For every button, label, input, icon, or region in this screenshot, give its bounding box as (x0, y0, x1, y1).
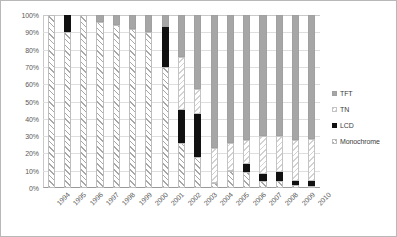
bar-segment-tn (308, 139, 315, 180)
plot-area: 0%10%20%30%40%50%60%70%80%90%100% 199419… (43, 15, 320, 188)
x-axis-tick-label: 2007 (267, 191, 283, 207)
stacked-bar (243, 15, 250, 188)
bar-column[interactable] (259, 15, 266, 188)
x-axis-tick-label: 1999 (137, 191, 153, 207)
bar-column[interactable] (80, 15, 87, 188)
stacked-bar (80, 15, 87, 188)
bar-column[interactable] (227, 15, 234, 188)
y-axis-tick-label: 10% (25, 167, 39, 174)
legend-item-monochrome[interactable]: Monochrome (332, 133, 394, 149)
stacked-bar (96, 15, 103, 188)
bar-segment-tft (276, 15, 283, 136)
bar-segment-monochrome (178, 143, 185, 188)
bar-segment-monochrome (308, 186, 315, 188)
bar-column[interactable] (194, 15, 201, 188)
bar-segment-tft (259, 15, 266, 136)
bar-segment-tft (194, 15, 201, 89)
bar-segment-monochrome (276, 181, 283, 188)
bar-column[interactable] (162, 15, 169, 188)
bar-column[interactable] (308, 15, 315, 188)
bar-segment-lcd (178, 110, 185, 143)
chart-legend: TFTTNLCDMonochrome (332, 85, 394, 149)
bar-segment-tn (227, 143, 234, 171)
bar-segment-monochrome (129, 29, 136, 188)
y-axis-tick-label: 90% (25, 29, 39, 36)
bar-series-group (43, 15, 320, 188)
stacked-bar (227, 15, 234, 188)
bar-segment-monochrome (194, 157, 201, 188)
bar-segment-tft (113, 15, 120, 25)
bar-segment-monochrome (162, 67, 169, 188)
bar-segment-monochrome (64, 32, 71, 188)
x-axis-tick-label: 1995 (72, 191, 88, 207)
bar-segment-monochrome (96, 22, 103, 188)
x-axis-tick-label: 1994 (56, 191, 72, 207)
bar-segment-tft (211, 15, 218, 148)
bar-segment-tft (227, 15, 234, 143)
bar-column[interactable] (243, 15, 250, 188)
bar-column[interactable] (48, 15, 55, 188)
stacked-bar (129, 15, 136, 188)
x-axis-tick-label: 2002 (186, 191, 202, 207)
bar-segment-tft (162, 15, 169, 27)
stacked-bar (211, 15, 218, 188)
bar-column[interactable] (64, 15, 71, 188)
bar-segment-tft (292, 15, 299, 140)
stacked-bar (308, 15, 315, 188)
bar-segment-tft (308, 15, 315, 139)
bar-segment-monochrome (292, 185, 299, 188)
legend-swatch-icon (332, 139, 337, 144)
y-axis-tick-label: 70% (25, 63, 39, 70)
x-axis-tick-label: 2009 (300, 191, 316, 207)
bar-segment-monochrome (80, 15, 87, 188)
y-axis-tick-label: 60% (25, 81, 39, 88)
bar-segment-tft (178, 15, 185, 57)
bar-column[interactable] (145, 15, 152, 188)
bar-column[interactable] (292, 15, 299, 188)
legend-item-tft[interactable]: TFT (332, 85, 394, 101)
y-axis-tick-label: 30% (25, 133, 39, 140)
bar-segment-tft (129, 15, 136, 29)
legend-swatch-icon (332, 123, 337, 128)
bar-segment-tft (96, 15, 103, 22)
legend-swatch-icon (332, 107, 337, 112)
stacked-bar (259, 15, 266, 188)
x-axis-tick-label: 2008 (284, 191, 300, 207)
y-axis-tick-label: 80% (25, 46, 39, 53)
x-axis-tick-label: 2000 (153, 191, 169, 207)
bar-segment-monochrome (211, 183, 218, 188)
bar-column[interactable] (129, 15, 136, 188)
bar-column[interactable] (211, 15, 218, 188)
bar-column[interactable] (113, 15, 120, 188)
legend-item-tn[interactable]: TN (332, 101, 394, 117)
bar-segment-lcd (259, 174, 266, 181)
legend-label: LCD (340, 122, 354, 129)
bar-segment-tn (292, 140, 299, 182)
x-axis-tick-label: 1998 (121, 191, 137, 207)
stacked-bar (276, 15, 283, 188)
stacked-bar (64, 15, 71, 188)
chart-frame: 0%10%20%30%40%50%60%70%80%90%100% 199419… (0, 0, 397, 237)
bar-column[interactable] (178, 15, 185, 188)
bar-segment-monochrome (48, 15, 55, 188)
stacked-bar (48, 15, 55, 188)
legend-item-lcd[interactable]: LCD (332, 117, 394, 133)
stacked-bar (162, 15, 169, 188)
bar-segment-lcd (162, 27, 169, 67)
bar-segment-lcd (194, 114, 201, 157)
stacked-bar (292, 15, 299, 188)
stacked-bar (178, 15, 185, 188)
y-axis-tick-label: 50% (25, 98, 39, 105)
x-axis-tick-label: 1997 (104, 191, 120, 207)
bar-column[interactable] (96, 15, 103, 188)
legend-label: TFT (340, 90, 353, 97)
bar-segment-tn (211, 148, 218, 183)
bar-segment-tn (276, 136, 283, 172)
stacked-bar (145, 15, 152, 188)
bar-segment-monochrome (113, 25, 120, 188)
bar-segment-tft (243, 15, 250, 140)
x-axis-tick-label: 2001 (170, 191, 186, 207)
x-axis-tick-label: 2003 (202, 191, 218, 207)
x-axis-tick-label: 2010 (316, 191, 332, 207)
bar-column[interactable] (276, 15, 283, 188)
